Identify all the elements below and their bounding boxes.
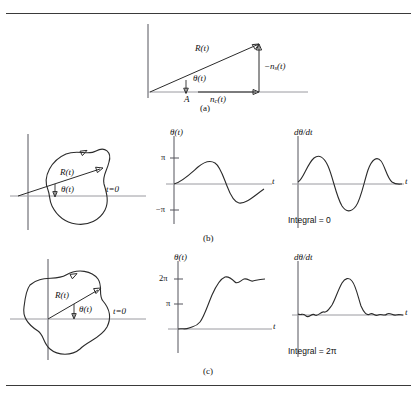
label-inphase-noise: nc(t) — [210, 95, 226, 105]
theta-b-ytick-pi: π — [161, 153, 165, 162]
theta-b-ytick-neg-pi: −π — [156, 205, 165, 214]
theta-c-ylabel: θ(t) — [174, 253, 187, 262]
trajectory-direction-arrow-c — [70, 274, 77, 279]
label-resultant-b: R(t) — [60, 168, 74, 177]
panel-c-theta-plot: θ(t) t 2π π — [160, 257, 280, 357]
label-theta-a: θ(t) — [193, 74, 206, 83]
label-theta-b: θ(t) — [61, 185, 74, 194]
panel-a: R(t) θ(t) A −ns(t) nc(t) — [140, 22, 310, 102]
rate-b-xlabel: t — [405, 177, 408, 186]
label-t0-c: t=0 — [113, 307, 126, 316]
rate-c-curve — [298, 279, 403, 317]
phasor-trajectory-b — [46, 149, 109, 224]
theta-b-graphic — [160, 132, 280, 227]
label-quadrature-noise: −ns(t) — [264, 62, 286, 72]
theta-c-ytick-pi: π — [166, 299, 170, 308]
theta-c-graphic — [160, 257, 280, 357]
panel-b-rate-plot: dθ/dt t Integral = 0 — [288, 132, 413, 232]
theta-c-ytick-2pi: 2π — [159, 274, 168, 283]
resultant-arrowhead-b — [96, 167, 103, 172]
top-divider — [6, 13, 411, 14]
label-carrier-amplitude: A — [184, 95, 190, 104]
resultant-vector-b — [18, 169, 100, 196]
bottom-divider — [6, 385, 411, 386]
rate-c-integral-annotation: Integral = 2π — [288, 347, 337, 356]
theta-c-xlabel: t — [273, 322, 276, 331]
label-t0-b: t=0 — [106, 185, 119, 194]
panel-c-phasor: R(t) θ(t) t=0 — [8, 257, 148, 362]
panel-b-phasor-graphic — [8, 132, 148, 232]
panel-c-phasor-graphic — [8, 257, 148, 362]
rate-b-integral-annotation: Integral = 0 — [288, 216, 331, 225]
label-resultant-c: R(t) — [55, 291, 69, 300]
rate-b-ylabel: dθ/dt — [294, 128, 312, 137]
rate-c-xlabel: t — [405, 308, 408, 317]
panel-b-phasor: R(t) θ(t) t=0 — [8, 132, 148, 232]
theta-b-curve — [174, 162, 264, 203]
theta-b-xlabel: t — [272, 177, 275, 186]
theta-b-ylabel: θ(t) — [170, 128, 183, 137]
label-theta-c: θ(t) — [79, 305, 92, 314]
panel-b-theta-plot: θ(t) t π −π — [160, 132, 280, 227]
caption-c: (c) — [203, 366, 213, 376]
label-resultant-a: R(t) — [195, 44, 209, 53]
theta-c-curve — [178, 277, 265, 329]
rate-c-ylabel: dθ/dt — [294, 253, 312, 262]
phasor-trajectory-c — [24, 271, 110, 354]
panel-c-rate-plot: dθ/dt t Integral = 2π — [288, 257, 413, 362]
caption-a: (a) — [200, 103, 210, 113]
caption-b: (b) — [203, 233, 214, 243]
